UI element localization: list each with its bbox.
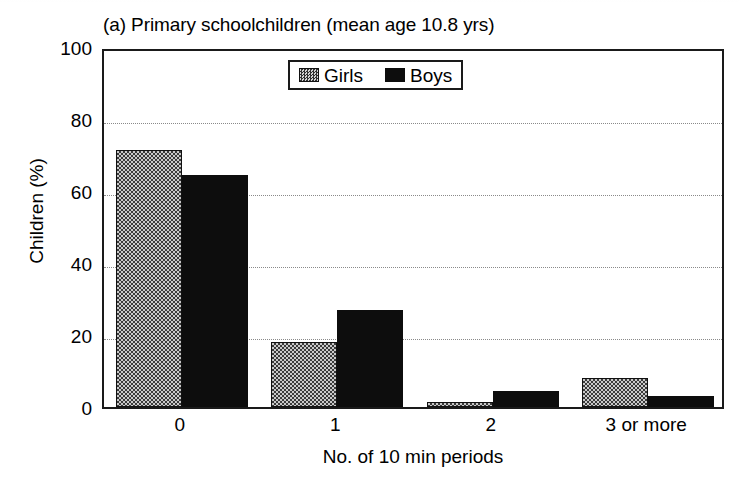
- bar-girls-1: [271, 342, 337, 407]
- y-tick-label: 100: [8, 39, 92, 58]
- bar-series-container: [104, 51, 722, 407]
- solid-black-swatch: [385, 68, 405, 82]
- x-tick-label: 0: [174, 414, 185, 436]
- legend-label: Girls: [324, 66, 363, 85]
- page-title: (a) Primary schoolchildren (mean age 10.…: [103, 14, 494, 36]
- bar-girls-2: [427, 402, 493, 407]
- x-tick-label: 3 or more: [606, 414, 687, 436]
- legend-label: Boys: [410, 66, 452, 85]
- x-tick-label: 2: [485, 414, 496, 436]
- plot-area: [102, 49, 724, 409]
- legend-entry-girls: Girls: [299, 66, 363, 85]
- y-tick-label: 80: [8, 111, 92, 130]
- y-tick-label: 0: [8, 399, 92, 418]
- y-axis-tick-labels: 100806040200: [0, 49, 92, 409]
- checkered-gray-swatch: [299, 68, 319, 82]
- x-axis-title: No. of 10 min periods: [102, 446, 724, 468]
- bar-boys-2: [493, 391, 559, 407]
- x-tick-label: 1: [330, 414, 341, 436]
- legend-entry-boys: Boys: [385, 66, 452, 85]
- figure-panel-a: (a) Primary schoolchildren (mean age 10.…: [0, 0, 739, 494]
- bar-girls-0: [116, 150, 182, 407]
- chart-legend: GirlsBoys: [288, 60, 463, 90]
- y-tick-label: 60: [8, 183, 92, 202]
- bar-girls-3-or-more: [582, 378, 648, 407]
- bar-boys-0: [182, 175, 248, 407]
- y-tick-label: 20: [8, 327, 92, 346]
- bar-boys-1: [337, 310, 403, 407]
- bar-boys-3-or-more: [648, 396, 714, 407]
- x-axis-tick-labels: 0123 or more: [102, 414, 724, 442]
- y-tick-label: 40: [8, 255, 92, 274]
